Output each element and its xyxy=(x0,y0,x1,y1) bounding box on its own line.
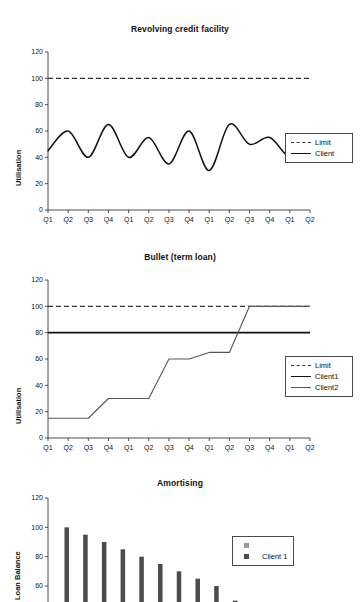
svg-text:20: 20 xyxy=(35,180,43,187)
legend-bullet: LimitClient1Client2 xyxy=(285,356,353,397)
svg-text:Q4: Q4 xyxy=(184,216,193,224)
svg-text:0: 0 xyxy=(39,206,43,213)
svg-text:100: 100 xyxy=(31,524,43,531)
legend-label: Client1 xyxy=(315,372,338,381)
svg-text:Q4: Q4 xyxy=(184,444,193,452)
legend-item: Client 1 xyxy=(237,551,288,562)
svg-text:60: 60 xyxy=(35,127,43,134)
legend-label: Limit xyxy=(315,138,331,147)
legend-label: Client2 xyxy=(315,383,338,392)
svg-text:Q4: Q4 xyxy=(265,444,274,452)
svg-text:Q1: Q1 xyxy=(285,444,294,452)
svg-text:40: 40 xyxy=(35,382,43,389)
svg-text:120: 120 xyxy=(31,494,43,501)
svg-text:Q2: Q2 xyxy=(225,444,234,452)
svg-text:Q3: Q3 xyxy=(245,444,254,452)
svg-text:Q1: Q1 xyxy=(43,444,52,452)
chart-sheet: Revolving credit facility Utilisation 02… xyxy=(0,0,360,602)
svg-text:Q4: Q4 xyxy=(104,444,113,452)
svg-text:Q1: Q1 xyxy=(124,216,133,224)
legend-label: Limit xyxy=(315,361,331,370)
svg-text:Q2: Q2 xyxy=(63,216,72,224)
svg-text:0: 0 xyxy=(39,434,43,441)
svg-text:60: 60 xyxy=(35,582,43,589)
svg-text:100: 100 xyxy=(31,303,43,310)
legend-key-square-icon xyxy=(237,552,259,561)
chart-panel-amortising: Amortising Loan Balance 6080100120 Clien… xyxy=(0,478,360,602)
svg-text:60: 60 xyxy=(35,355,43,362)
legend-key-solid-line-icon xyxy=(290,149,312,158)
svg-text:80: 80 xyxy=(35,329,43,336)
legend-key-dashed-line-icon xyxy=(290,138,312,147)
plot-area-revolving: 020406080100120Q1Q2Q3Q4Q1Q2Q3Q4Q1Q2Q3Q4Q… xyxy=(0,24,360,236)
svg-text:Q1: Q1 xyxy=(205,444,214,452)
legend-item: Client xyxy=(290,148,347,159)
legend-key-square-icon xyxy=(237,541,259,550)
legend-key-dashed-line-icon xyxy=(290,361,312,370)
legend-label: Client xyxy=(315,149,334,158)
svg-text:Q2: Q2 xyxy=(305,444,314,452)
legend-item: Limit xyxy=(290,137,347,148)
svg-text:Q3: Q3 xyxy=(245,216,254,224)
legend-item: Client1 xyxy=(290,371,347,382)
legend-item xyxy=(237,540,288,551)
svg-text:120: 120 xyxy=(31,276,43,283)
legend-label: Client 1 xyxy=(262,552,287,561)
svg-text:Q2: Q2 xyxy=(225,216,234,224)
svg-text:Q2: Q2 xyxy=(144,444,153,452)
svg-text:80: 80 xyxy=(35,553,43,560)
svg-text:20: 20 xyxy=(35,408,43,415)
svg-text:Q2: Q2 xyxy=(305,216,314,224)
legend-revolving: LimitClient xyxy=(285,133,353,163)
legend-key-thin-line-icon xyxy=(290,383,312,392)
svg-text:Q3: Q3 xyxy=(164,444,173,452)
svg-text:100: 100 xyxy=(31,75,43,82)
legend-amortising: Client 1 xyxy=(232,536,294,566)
svg-text:120: 120 xyxy=(31,48,43,55)
svg-text:Q3: Q3 xyxy=(164,216,173,224)
svg-text:Q2: Q2 xyxy=(63,444,72,452)
svg-text:40: 40 xyxy=(35,154,43,161)
legend-key-solid-line-icon xyxy=(290,372,312,381)
svg-text:Q2: Q2 xyxy=(144,216,153,224)
legend-item: Limit xyxy=(290,360,347,371)
legend-item: Client2 xyxy=(290,382,347,393)
svg-text:Q3: Q3 xyxy=(84,216,93,224)
chart-panel-revolving: Revolving credit facility Utilisation 02… xyxy=(0,24,360,236)
svg-text:Q1: Q1 xyxy=(124,444,133,452)
svg-text:Q4: Q4 xyxy=(265,216,274,224)
svg-text:80: 80 xyxy=(35,101,43,108)
svg-text:Q1: Q1 xyxy=(285,216,294,224)
plot-area-amortising: 6080100120 xyxy=(0,478,360,602)
chart-panel-bullet: Bullet (term loan) Utilisation 020406080… xyxy=(0,252,360,470)
svg-text:Q3: Q3 xyxy=(84,444,93,452)
svg-text:Q1: Q1 xyxy=(205,216,214,224)
svg-text:Q4: Q4 xyxy=(104,216,113,224)
svg-text:Q1: Q1 xyxy=(43,216,52,224)
